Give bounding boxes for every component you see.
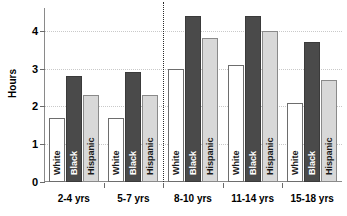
bar-label: White: [52, 151, 61, 176]
bar-white-8-10-yrs: White: [168, 69, 184, 182]
x-group-label-15-18-yrs: 15-18 yrs: [291, 193, 334, 204]
bar-hispanic-11-14-yrs: Hispanic: [262, 31, 278, 182]
bar-label: Hispanic: [265, 137, 274, 175]
bar-label: Hispanic: [86, 137, 95, 175]
bar-black-5-7-yrs: Black: [125, 72, 141, 182]
bar-chart: Hours 01234 WhiteBlackHispanicWhiteBlack…: [0, 0, 347, 216]
y-tick-mark: [40, 106, 45, 107]
x-group-label-5-7-yrs: 5-7 yrs: [117, 193, 149, 204]
bar-label: Black: [189, 151, 198, 175]
bar-label: White: [231, 151, 240, 176]
bar-black-2-4-yrs: Black: [66, 76, 82, 182]
vertical-divider: [163, 2, 164, 182]
bar-label: Black: [129, 151, 138, 175]
y-axis-line: [44, 8, 45, 182]
bar-label: White: [112, 151, 121, 176]
y-axis-title: Hours: [7, 54, 18, 114]
x-tick-mark: [163, 183, 164, 188]
bar-black-15-18-yrs: Black: [304, 42, 320, 182]
bar-label: Hispanic: [206, 137, 215, 175]
bar-label: Hispanic: [146, 137, 155, 175]
bar-label: Hispanic: [325, 137, 334, 175]
bar-hispanic-15-18-yrs: Hispanic: [321, 80, 337, 182]
bar-black-8-10-yrs: Black: [185, 16, 201, 182]
x-tick-mark: [223, 183, 224, 188]
bar-label: Black: [308, 151, 317, 175]
x-axis-labels: 2-4 yrs5-7 yrs8-10 yrs11-14 yrs15-18 yrs: [44, 183, 342, 216]
bar-hispanic-2-4-yrs: Hispanic: [83, 95, 99, 182]
y-tick-label: 2: [32, 101, 38, 112]
y-tick-label: 3: [32, 63, 38, 74]
bar-label: Black: [69, 151, 78, 175]
x-tick-mark: [104, 183, 105, 188]
y-tick-label: 4: [32, 25, 38, 36]
bar-label: Black: [248, 151, 257, 175]
x-group-label-2-4-yrs: 2-4 yrs: [58, 193, 90, 204]
y-tick-label: 1: [32, 139, 38, 150]
y-tick-mark: [40, 144, 45, 145]
bar-black-11-14-yrs: Black: [245, 16, 261, 182]
y-tick-label: 0: [32, 177, 38, 188]
bar-label: White: [172, 151, 181, 176]
bar-white-5-7-yrs: White: [108, 118, 124, 182]
bar-white-11-14-yrs: White: [228, 65, 244, 182]
bar-white-2-4-yrs: White: [49, 118, 65, 182]
y-tick-mark: [40, 31, 45, 32]
bar-hispanic-8-10-yrs: Hispanic: [202, 38, 218, 182]
x-group-label-11-14-yrs: 11-14 yrs: [231, 193, 274, 204]
x-group-label-8-10-yrs: 8-10 yrs: [174, 193, 212, 204]
plot-area: 01234 WhiteBlackHispanicWhiteBlackHispan…: [44, 8, 342, 182]
bar-hispanic-5-7-yrs: Hispanic: [142, 95, 158, 182]
bar-white-15-18-yrs: White: [287, 103, 303, 182]
y-tick-mark: [40, 69, 45, 70]
x-tick-mark: [282, 183, 283, 188]
bar-label: White: [291, 151, 300, 176]
